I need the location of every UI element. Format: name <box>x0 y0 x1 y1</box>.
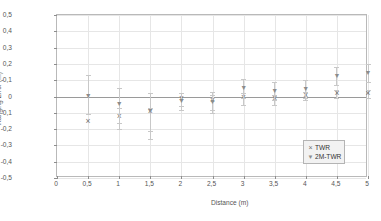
x-tick-label: 2,5 <box>207 180 216 187</box>
error-bar-cap <box>241 98 246 99</box>
x-tick-label: 4,5 <box>331 180 340 187</box>
error-bar-cap <box>210 113 215 114</box>
data-point-2m-twr: ▼ <box>271 86 278 93</box>
x-tick-label: 2 <box>179 180 183 187</box>
error-bar-cap <box>334 67 339 68</box>
data-point-2m-twr: ▼ <box>240 83 247 90</box>
gridline-horizontal <box>57 64 366 65</box>
y-tick-mark <box>54 15 57 16</box>
y-tick-label: -0,2 <box>1 125 12 132</box>
error-bar-cap <box>366 98 371 99</box>
x-tick-mark <box>88 176 89 179</box>
error-bar-cap <box>303 98 308 99</box>
error-bar-cap <box>272 105 277 106</box>
x-tick-label: 0 <box>54 180 58 187</box>
error-bar-cap <box>303 100 308 101</box>
x-tick-mark <box>368 176 369 179</box>
error-bar-cap <box>117 88 122 89</box>
y-tick-label: 0,5 <box>3 11 12 18</box>
y-tick-mark <box>54 80 57 81</box>
data-point-twr: × <box>334 89 339 98</box>
error-bar-cap <box>272 100 277 101</box>
x-tick-label: 1,5 <box>145 180 154 187</box>
error-bar-cap <box>303 80 308 81</box>
error-bar-cap <box>241 105 246 106</box>
data-point-2m-twr: ▼ <box>209 98 216 105</box>
gridline-horizontal <box>57 178 366 179</box>
y-tick-label: -0,5 <box>1 174 12 181</box>
y-tick-label: -0,3 <box>1 141 12 148</box>
legend-item: ×TWR <box>306 143 341 152</box>
y-tick-label: -0,4 <box>1 157 12 164</box>
x-tick-mark <box>244 176 245 179</box>
x-tick-label: 0,5 <box>83 180 92 187</box>
x-tick-label: 3,5 <box>269 180 278 187</box>
x-axis-title: Distance (m) <box>211 199 248 206</box>
x-tick-mark <box>306 176 307 179</box>
error-bar-cap <box>334 98 339 99</box>
gridline-horizontal <box>57 129 366 130</box>
data-point-2m-twr: ▼ <box>116 100 123 107</box>
x-tick-mark <box>119 176 120 179</box>
data-point-2m-twr: ▼ <box>333 72 340 79</box>
error-bar-cap <box>210 92 215 93</box>
x-tick-mark <box>57 176 58 179</box>
legend-label: 2M-TWR <box>315 153 341 160</box>
y-tick-label: 0,3 <box>3 43 12 50</box>
gridline-horizontal <box>57 15 366 16</box>
legend-marker-cross-icon: × <box>306 144 315 151</box>
data-point-2m-twr: ▼ <box>302 85 309 92</box>
error-bar-cap <box>148 93 153 94</box>
x-tick-label: 1 <box>116 180 120 187</box>
y-tick-label: 0 <box>8 92 12 99</box>
legend-marker-triangle-icon: ▼ <box>306 154 315 160</box>
data-point-twr: × <box>86 117 91 126</box>
data-point-2m-twr: ▼ <box>365 69 372 76</box>
error-bar-cap <box>86 114 91 115</box>
chart-figure: Ranging Error (m) Distance (m) 0,50,40,3… <box>0 0 381 221</box>
error-bar-cap <box>86 75 91 76</box>
y-tick-label: -0,1 <box>1 108 12 115</box>
y-tick-mark <box>54 113 57 114</box>
error-bar-cap <box>334 85 339 86</box>
y-tick-label: 0,1 <box>3 76 12 83</box>
y-tick-mark <box>54 48 57 49</box>
error-bar-cap <box>117 123 122 124</box>
y-tick-label: 0,2 <box>3 59 12 66</box>
x-tick-mark <box>181 176 182 179</box>
data-point-2m-twr: ▼ <box>147 106 154 113</box>
gridline-horizontal <box>57 31 366 32</box>
x-tick-mark <box>213 176 214 179</box>
chart-legend: ×TWR▼2M-TWR <box>303 140 345 164</box>
error-bar-cap <box>179 93 184 94</box>
y-tick-mark <box>54 64 57 65</box>
x-tick-mark <box>275 176 276 179</box>
x-tick-label: 3 <box>241 180 245 187</box>
y-tick-mark <box>54 97 57 98</box>
error-bar-cap <box>117 129 122 130</box>
x-tick-label: 4 <box>303 180 307 187</box>
data-point-2m-twr: ▼ <box>85 91 92 98</box>
y-tick-mark <box>54 31 57 32</box>
error-bar-cap <box>366 82 371 83</box>
legend-item: ▼2M-TWR <box>306 152 341 161</box>
error-bar-cap <box>366 64 371 65</box>
legend-label: TWR <box>315 144 330 151</box>
error-bar-cap <box>272 82 277 83</box>
gridline-horizontal <box>57 80 366 81</box>
data-point-2m-twr: ▼ <box>178 96 185 103</box>
y-tick-label: 0,4 <box>3 27 12 34</box>
error-bar <box>150 93 151 139</box>
y-tick-mark <box>54 129 57 130</box>
error-bar-cap <box>179 110 184 111</box>
error-bar-cap <box>148 139 153 140</box>
x-tick-mark <box>337 176 338 179</box>
x-tick-mark <box>150 176 151 179</box>
error-bar-cap <box>241 79 246 80</box>
x-tick-label: 5 <box>365 180 369 187</box>
data-point-twr: × <box>366 89 371 98</box>
y-tick-mark <box>54 162 57 163</box>
y-tick-mark <box>54 145 57 146</box>
y-axis-title: Ranging Error (m) <box>0 72 2 125</box>
gridline-horizontal <box>57 48 366 49</box>
